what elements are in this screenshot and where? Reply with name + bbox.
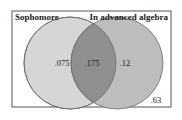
value-neither: .63 <box>151 95 162 105</box>
venn-diagram: Sophomore In advanced algebra .075 .175 … <box>0 0 182 120</box>
set-label-advanced-algebra: In advanced algebra <box>89 12 168 22</box>
set-label-sophomore: Sophomore <box>15 12 59 22</box>
value-sophomore-only: .075 <box>55 58 70 68</box>
value-intersection: .175 <box>85 58 100 68</box>
value-advanced-algebra-only: .12 <box>120 58 131 68</box>
